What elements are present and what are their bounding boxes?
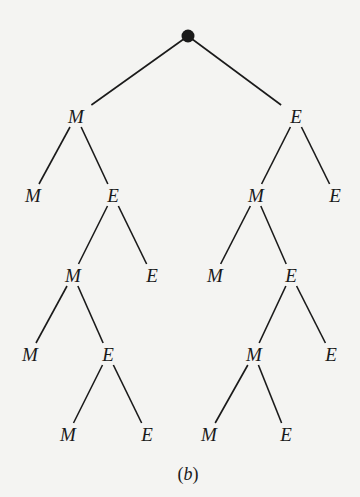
tree-edge	[301, 127, 329, 184]
tree-edge	[78, 286, 103, 343]
tree-node-m: M	[60, 425, 76, 444]
tree-node-m: M	[25, 186, 41, 205]
tree-edge	[261, 206, 286, 264]
tree-node-e: E	[146, 266, 158, 285]
tree-node-e: E	[141, 425, 153, 444]
tree-edge	[297, 286, 326, 343]
tree-edge	[91, 36, 188, 105]
tree-node-e: E	[329, 186, 341, 205]
tree-edge	[188, 36, 281, 105]
tree-node-e: E	[285, 266, 297, 285]
tree-node-e: E	[290, 107, 302, 126]
tree-node-m: M	[207, 266, 223, 285]
tree-edge	[215, 365, 248, 423]
tree-edge	[79, 206, 108, 264]
caption-letter: b	[184, 464, 193, 484]
tree-edge	[258, 365, 281, 423]
tree-node-m: M	[246, 345, 262, 364]
tree-edge	[221, 206, 251, 264]
tree-node-m: M	[248, 186, 264, 205]
tree-edge	[113, 365, 141, 423]
tree-node-m: M	[65, 266, 81, 285]
tree-diagram: MEMEMEMEMEMEMEMEME (b)	[0, 0, 360, 497]
tree-node-m: M	[22, 345, 38, 364]
root-node-dot	[182, 30, 195, 43]
tree-node-e: E	[280, 425, 292, 444]
tree-edge	[81, 127, 108, 184]
tree-node-m: M	[68, 107, 84, 126]
tree-edge	[36, 286, 67, 343]
tree-edge	[118, 206, 146, 264]
tree-edge	[39, 127, 70, 184]
tree-edge	[74, 365, 103, 423]
tree-node-m: M	[201, 425, 217, 444]
tree-edge	[262, 127, 291, 184]
tree-node-e: E	[102, 345, 114, 364]
tree-node-e: E	[325, 345, 337, 364]
tree-node-e: E	[107, 186, 119, 205]
figure-caption: (b)	[178, 464, 199, 485]
tree-edges	[0, 0, 360, 497]
tree-edge	[259, 286, 286, 343]
